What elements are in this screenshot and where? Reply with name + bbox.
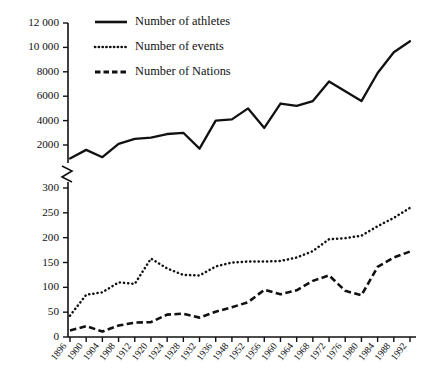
- olympics-statistics-chart: 200040006000800010 00012 000050100150200…: [0, 0, 431, 376]
- upper-y-tick-label: 8000: [37, 65, 60, 77]
- x-tick-label: 1956: [242, 340, 263, 362]
- x-tick-label: 1928: [161, 340, 182, 362]
- upper-y-tick-label: 12 000: [28, 16, 59, 28]
- x-tick-label: 1952: [226, 340, 247, 362]
- x-tick-label: 1908: [97, 340, 118, 362]
- legend-label: Number of Nations: [135, 64, 231, 78]
- lower-y-tick-label: 0: [53, 330, 59, 342]
- chart-canvas: 200040006000800010 00012 000050100150200…: [0, 0, 431, 376]
- lower-y-tick-label: 250: [42, 206, 59, 218]
- upper-y-tick-label: 10 000: [28, 40, 59, 52]
- series-line-nations: [70, 252, 410, 332]
- x-tick-label: 1896: [48, 340, 69, 362]
- x-tick-label: 1936: [194, 340, 215, 362]
- legend-label: Number of events: [135, 39, 224, 53]
- x-tick-label: 1904: [80, 340, 101, 362]
- upper-y-tick-label: 4000: [37, 114, 60, 126]
- x-tick-label: 1968: [291, 340, 312, 362]
- lower-y-tick-label: 50: [48, 305, 60, 317]
- lower-y-tick-label: 200: [42, 231, 59, 243]
- lower-y-tick-label: 150: [42, 256, 59, 268]
- x-tick-label: 1972: [307, 340, 328, 362]
- upper-y-tick-label: 6000: [37, 89, 60, 101]
- x-tick-label: 1920: [129, 340, 150, 362]
- x-tick-label: 1988: [372, 340, 393, 362]
- x-tick-label: 1948: [210, 340, 231, 362]
- x-tick-label: 1912: [113, 340, 134, 362]
- x-tick-label: 1964: [275, 340, 296, 362]
- x-tick-label: 1900: [64, 340, 85, 362]
- axis-break-icon: [62, 166, 72, 182]
- x-tick-label: 1960: [259, 340, 280, 362]
- series-line-events: [70, 208, 410, 316]
- series-line-athletes: [70, 41, 410, 158]
- x-tick-label: 1932: [178, 340, 199, 362]
- x-tick-label: 1976: [323, 340, 344, 362]
- upper-y-tick-label: 2000: [37, 138, 60, 150]
- lower-y-tick-label: 300: [42, 181, 59, 193]
- x-tick-label: 1984: [356, 340, 377, 362]
- x-tick-label: 1992: [388, 340, 409, 362]
- x-tick-label: 1980: [340, 340, 361, 362]
- x-tick-label: 1924: [145, 340, 166, 362]
- lower-y-tick-label: 100: [42, 280, 59, 292]
- legend-label: Number of athletes: [135, 14, 230, 28]
